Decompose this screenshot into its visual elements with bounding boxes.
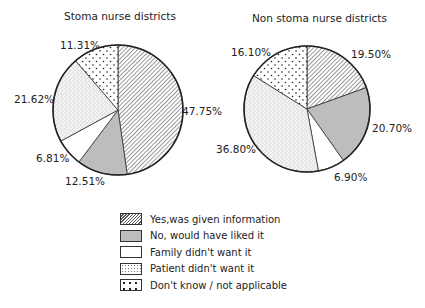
label-nonstoma-no: 20.70% [372, 122, 412, 134]
white-swatch-icon [120, 246, 142, 258]
pie-chart-stoma [53, 45, 183, 175]
label-stoma-no: 12.51% [65, 175, 105, 187]
legend-label: No, would have liked it [150, 230, 264, 241]
pie-chart-non-stoma [244, 46, 370, 172]
label-stoma-yes: 47.75% [182, 105, 222, 117]
dots-swatch-icon [120, 279, 142, 291]
legend-label: Yes,was given information [150, 214, 280, 225]
legend-label: Don't know / not applicable [150, 280, 287, 291]
legend-item-family: Family didn't want it [120, 244, 287, 261]
chart-legend: Yes,was given information No, would have… [120, 211, 287, 294]
label-stoma-dontknow: 11.31% [60, 39, 100, 51]
label-nonstoma-dontknow: 16.10% [231, 46, 271, 58]
grey-swatch-icon [120, 230, 142, 242]
label-nonstoma-yes: 19.50% [351, 48, 391, 60]
legend-label: Patient didn't want it [150, 263, 254, 274]
legend-item-yes: Yes,was given information [120, 211, 287, 228]
label-stoma-family: 6.81% [36, 152, 69, 164]
legend-label: Family didn't want it [150, 247, 251, 258]
chart-title-non-stoma: Non stoma nurse districts [252, 12, 387, 24]
label-nonstoma-family: 6.90% [334, 171, 367, 183]
hatch-swatch-icon [120, 213, 142, 225]
label-nonstoma-patient: 36.80% [216, 143, 256, 155]
chart-title-stoma: Stoma nurse districts [64, 10, 176, 22]
pie-slice [118, 45, 183, 174]
legend-item-no: No, would have liked it [120, 228, 287, 245]
stipple-swatch-icon [120, 263, 142, 275]
label-stoma-patient: 21.62% [14, 93, 54, 105]
legend-item-patient: Patient didn't want it [120, 261, 287, 278]
legend-item-dontknow: Don't know / not applicable [120, 277, 287, 294]
